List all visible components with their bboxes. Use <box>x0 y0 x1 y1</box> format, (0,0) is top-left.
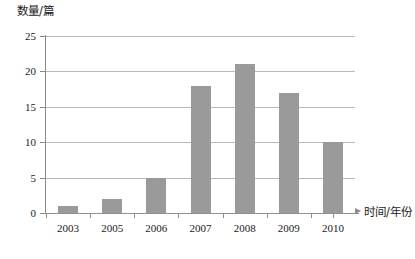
x-tick-label: 2003 <box>57 222 79 235</box>
x-tick-mark <box>134 214 135 218</box>
bar-chart: 数量/篇 时间/年份 0510152025 200320052006200720… <box>0 0 415 259</box>
y-tick-label: 10 <box>10 137 36 148</box>
y-tick-mark <box>40 71 45 72</box>
x-tick-mark <box>311 214 312 218</box>
bar <box>191 86 211 213</box>
y-tick-label: 20 <box>10 66 36 77</box>
bar <box>58 206 78 213</box>
y-tick-mark <box>40 213 45 214</box>
gridline <box>46 213 355 214</box>
bar <box>279 93 299 213</box>
plot-area <box>46 36 355 213</box>
x-tick-mark <box>223 214 224 218</box>
bar <box>323 142 343 213</box>
x-tick-label: 2007 <box>190 222 212 235</box>
x-tick-mark <box>333 214 334 218</box>
y-axis-title: 数量/篇 <box>17 4 54 18</box>
y-tick-mark <box>40 178 45 179</box>
x-axis-title: 时间/年份 <box>364 205 412 219</box>
y-tick-label: 5 <box>10 173 36 184</box>
x-tick-label: 2009 <box>278 222 300 235</box>
y-tick-label: 0 <box>10 208 36 219</box>
bar <box>102 199 122 213</box>
bar <box>146 178 166 213</box>
x-tick-mark <box>178 214 179 218</box>
x-tick-mark <box>267 214 268 218</box>
x-axis-arrow-icon <box>355 208 361 214</box>
x-tick-label: 2010 <box>322 222 344 235</box>
x-tick-label: 2005 <box>101 222 123 235</box>
gridline <box>46 36 355 37</box>
x-tick-label: 2008 <box>234 222 256 235</box>
y-tick-label: 15 <box>10 102 36 113</box>
bar <box>235 64 255 213</box>
y-tick-mark <box>40 36 45 37</box>
gridline <box>46 71 355 72</box>
y-tick-label: 25 <box>10 31 36 42</box>
x-tick-mark <box>90 214 91 218</box>
y-tick-mark <box>40 107 45 108</box>
y-tick-mark <box>40 142 45 143</box>
x-tick-mark <box>46 214 47 218</box>
x-tick-label: 2006 <box>145 222 167 235</box>
